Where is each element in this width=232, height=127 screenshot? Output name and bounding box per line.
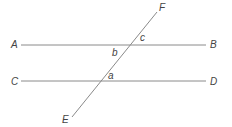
point-label-f: F: [159, 2, 166, 13]
diagram-svg: A B C D E F c b a: [0, 0, 232, 127]
angle-label-b: b: [112, 47, 118, 58]
point-label-e: E: [62, 114, 69, 125]
point-label-a: A: [10, 39, 18, 50]
angle-label-a: a: [108, 70, 114, 81]
point-label-c: C: [11, 76, 19, 87]
point-label-b: B: [210, 39, 217, 50]
parallel-lines-transversal-diagram: A B C D E F c b a: [0, 0, 232, 127]
transversal-ef: [72, 12, 157, 117]
point-label-d: D: [210, 76, 217, 87]
angle-label-c: c: [140, 32, 145, 43]
